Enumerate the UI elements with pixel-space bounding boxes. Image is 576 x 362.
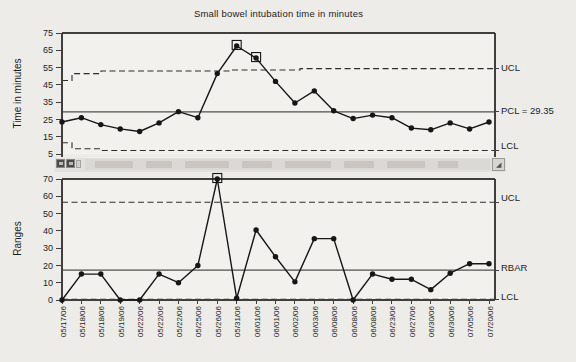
y-tick-label: 0: [48, 295, 53, 305]
flagged-point-box: [252, 53, 261, 62]
data-point-marker: [59, 297, 64, 302]
x-tick-label: 06/01/06: [253, 305, 262, 337]
bottom-center-line-label: RBAR: [501, 262, 527, 273]
data-point-marker: [176, 109, 181, 114]
data-point-marker: [292, 279, 297, 284]
top-y-axis-title: Time in minutes: [12, 24, 23, 164]
x-tick-label: 06/23/06: [388, 305, 397, 337]
scrollbar-button-2[interactable]: [66, 159, 75, 168]
data-point-marker: [98, 271, 103, 276]
y-tick-label: 75: [43, 28, 53, 38]
y-tick-label: 10: [43, 278, 53, 288]
data-point-marker: [59, 119, 64, 124]
x-tick-label: 07/05/06: [466, 305, 475, 337]
x-tick-label: 05/25/06: [194, 305, 203, 337]
scanned-control-chart-page: Small bowel intubation time in minutes T…: [0, 0, 576, 362]
ghost-text-block: [344, 161, 374, 168]
data-point-marker: [273, 79, 278, 84]
data-point-marker: [79, 115, 84, 120]
x-tick-label: 05/19/06: [117, 305, 126, 337]
x-tick-label: 06/02/06: [291, 305, 300, 337]
scroll-right-button[interactable]: ◢: [492, 158, 505, 171]
plot-area: [62, 33, 495, 154]
ghost-text-block: [387, 161, 425, 168]
data-point-marker: [156, 120, 161, 125]
data-point-marker: [312, 236, 317, 241]
data-series-line: [62, 46, 489, 132]
data-point-marker: [389, 115, 394, 120]
data-point-marker: [137, 129, 142, 134]
data-point-marker: [370, 112, 375, 117]
x-tick-label: 07/20/06: [486, 305, 495, 337]
ghost-text-block: [242, 161, 272, 168]
data-point-marker: [331, 108, 336, 113]
x-tick-label: 06/03/06: [311, 305, 320, 337]
x-tick-label: 05/26/06: [214, 305, 223, 337]
bottom-lcl-label: LCL: [501, 291, 518, 302]
top-lcl-label: LCL: [501, 140, 518, 151]
range-chart: 70605040302010005/17/0605/18/0605/18/060…: [0, 0, 576, 362]
data-point-marker: [350, 297, 355, 302]
xbar-chart: 756555453525155: [0, 0, 576, 362]
flagged-point-box: [213, 174, 222, 183]
data-point-marker: [312, 88, 317, 93]
data-point-marker: [79, 271, 84, 276]
data-point-marker: [215, 71, 220, 76]
x-tick-label: 06/08/06: [350, 305, 359, 337]
x-tick-label: 06/30/06: [447, 305, 456, 337]
data-point-marker: [292, 100, 297, 105]
y-tick-label: 70: [43, 174, 53, 184]
data-point-marker: [428, 127, 433, 132]
x-tick-label: 06/01/06: [272, 305, 281, 337]
data-point-marker: [273, 254, 278, 259]
data-point-marker: [467, 261, 472, 266]
top-ucl-label: UCL: [501, 62, 520, 73]
plot-area: [62, 179, 495, 300]
data-point-marker: [137, 297, 142, 302]
scrollbar-button-glyph: [69, 162, 73, 165]
ghost-text-block: [146, 161, 172, 168]
x-tick-label: 05/18/06: [97, 305, 106, 337]
x-tick-label: 05/18/06: [78, 305, 87, 337]
scrollbar-button-1[interactable]: [56, 159, 65, 168]
data-series-line: [62, 179, 489, 300]
chart-title: Small bowel intubation time in minutes: [62, 8, 495, 19]
x-tick-label: 06/27/06: [408, 305, 417, 337]
data-point-marker: [253, 227, 258, 232]
data-point-marker: [467, 126, 472, 131]
x-tick-label: 06/08/06: [330, 305, 339, 337]
lcl-line: [62, 143, 495, 151]
scrollbar-divider[interactable]: [76, 160, 81, 168]
top-center-line-label: PCL = 29.35: [501, 105, 554, 116]
y-tick-label: 30: [43, 243, 53, 253]
bottom-y-axis-title: Ranges: [12, 169, 23, 309]
data-point-marker: [486, 261, 491, 266]
data-point-marker: [409, 125, 414, 130]
data-point-marker: [118, 126, 123, 131]
data-point-marker: [253, 55, 258, 60]
data-point-marker: [370, 271, 375, 276]
data-point-marker: [350, 116, 355, 121]
x-tick-label: 06/30/06: [427, 305, 436, 337]
bottom-ucl-label: UCL: [501, 192, 520, 203]
data-point-marker: [447, 271, 452, 276]
x-tick-label: 05/31/06: [233, 305, 242, 337]
ghost-scrollbar-strip: ◢: [55, 158, 506, 172]
data-point-marker: [156, 271, 161, 276]
ghost-text-block: [95, 161, 133, 168]
y-tick-label: 45: [43, 80, 53, 90]
data-point-marker: [234, 296, 239, 301]
data-point-marker: [215, 176, 220, 181]
data-point-marker: [176, 280, 181, 285]
scrollbar-button-glyph: [59, 162, 63, 165]
data-point-marker: [428, 287, 433, 292]
data-point-marker: [195, 263, 200, 268]
data-point-marker: [409, 277, 414, 282]
scroll-right-icon: ◢: [496, 161, 501, 168]
data-point-marker: [331, 236, 336, 241]
y-tick-label: 20: [43, 261, 53, 271]
y-tick-label: 25: [43, 115, 53, 125]
ucl-line: [62, 69, 495, 81]
data-point-marker: [118, 297, 123, 302]
x-tick-label: 05/22/06: [136, 305, 145, 337]
